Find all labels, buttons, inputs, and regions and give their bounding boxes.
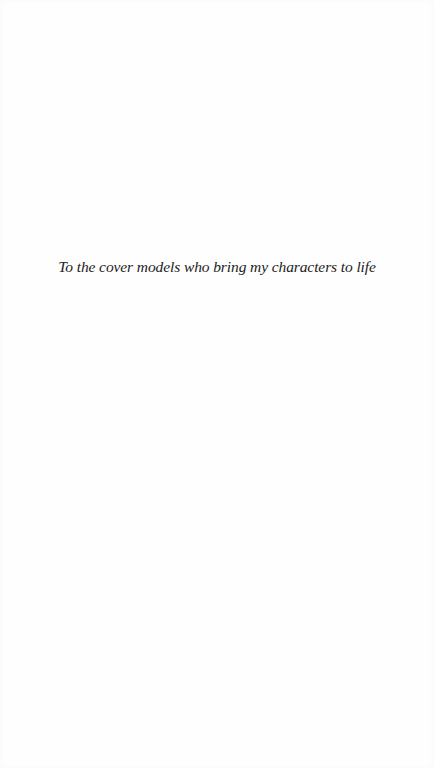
book-page: To the cover models who bring my charact… — [0, 0, 434, 768]
dedication-text: To the cover models who bring my charact… — [0, 257, 434, 277]
